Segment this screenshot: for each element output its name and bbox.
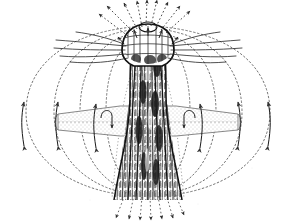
jet-disk-diagram: Magnetized jet and accretion disk schema…	[0, 0, 290, 222]
diagram-canvas	[0, 0, 290, 222]
